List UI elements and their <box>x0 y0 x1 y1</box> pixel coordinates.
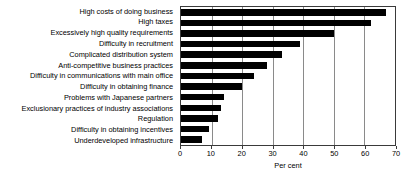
category-label: Exclusionary practices of industry assoc… <box>0 103 176 114</box>
bar-row <box>181 39 395 50</box>
bar-row <box>181 92 395 103</box>
bar <box>181 20 371 27</box>
bars-layer <box>181 7 395 145</box>
bar-row <box>181 60 395 71</box>
bar-row <box>181 124 395 135</box>
bar <box>181 105 221 112</box>
x-axis: 010203040506070 <box>180 146 396 162</box>
x-tick-label: 0 <box>178 150 182 157</box>
x-tick-label: 60 <box>361 150 369 157</box>
bar-row <box>181 28 395 39</box>
x-tick-label: 40 <box>299 150 307 157</box>
bar <box>181 51 282 58</box>
bar <box>181 73 254 80</box>
bar <box>181 30 334 37</box>
bar-row <box>181 49 395 60</box>
category-label: Difficulty in communications with main o… <box>0 71 176 82</box>
plot-area <box>180 6 396 146</box>
category-label: Difficulty in obtaining incentives <box>0 124 176 135</box>
bar-row <box>181 71 395 82</box>
x-tick-label: 70 <box>392 150 400 157</box>
category-label: Complicated distribution system <box>0 49 176 60</box>
bar <box>181 94 224 101</box>
x-tick-label: 10 <box>207 150 215 157</box>
category-label: High taxes <box>0 17 176 28</box>
bar-row <box>181 134 395 145</box>
category-label: Excessively high quality requirements <box>0 28 176 39</box>
bar-row <box>181 7 395 18</box>
bar <box>181 41 300 48</box>
category-label: Regulation <box>0 114 176 125</box>
x-tick-label: 20 <box>238 150 246 157</box>
bar <box>181 9 386 16</box>
category-axis-labels: High costs of doing businessHigh taxesEx… <box>0 6 176 146</box>
bar <box>181 83 242 90</box>
bar-row <box>181 18 395 29</box>
category-label: Anti-competitive business practices <box>0 60 176 71</box>
category-label: Difficulty in recruitment <box>0 38 176 49</box>
category-label: Underdeveloped infrastructure <box>0 135 176 146</box>
horizontal-bar-chart: High costs of doing businessHigh taxesEx… <box>0 0 415 179</box>
bar <box>181 62 267 69</box>
category-label: High costs of doing business <box>0 6 176 17</box>
bar <box>181 136 202 143</box>
bar <box>181 115 218 122</box>
bar <box>181 126 209 133</box>
bar-row <box>181 81 395 92</box>
category-label: Difficulty in obtaining finance <box>0 81 176 92</box>
bar-row <box>181 102 395 113</box>
category-label: Problems with Japanese partners <box>0 92 176 103</box>
x-tick-label: 50 <box>330 150 338 157</box>
bar-row <box>181 113 395 124</box>
x-axis-title: Per cent <box>180 162 396 169</box>
x-tick-label: 30 <box>268 150 276 157</box>
